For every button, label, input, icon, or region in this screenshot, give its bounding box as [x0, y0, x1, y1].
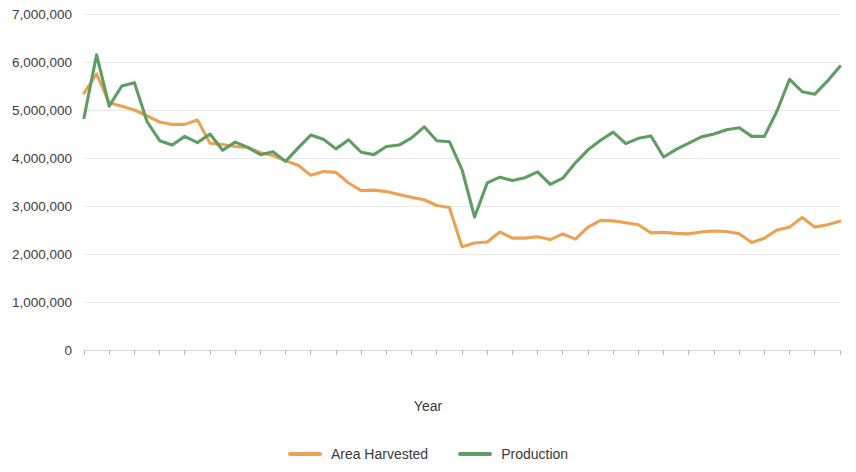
y-tick-label: 1,000,000 [12, 295, 72, 310]
series-line-2 [84, 55, 840, 217]
series-line-1 [84, 74, 840, 247]
legend-item-1[interactable]: Area Harvested [288, 446, 428, 462]
legend-label: Area Harvested [331, 446, 428, 462]
chart-legend: Area HarvestedProduction [0, 446, 856, 462]
y-tick-label: 2,000,000 [12, 247, 72, 262]
y-tick-label: 7,000,000 [12, 7, 72, 22]
plot-area: 01,000,0002,000,0003,000,0004,000,0005,0… [0, 0, 856, 360]
y-tick-label: 4,000,000 [12, 151, 72, 166]
plot-svg: 01,000,0002,000,0003,000,0004,000,0005,0… [0, 0, 856, 360]
legend-label: Production [501, 446, 568, 462]
line-swatch-icon [288, 452, 322, 456]
y-tick-label: 0 [64, 343, 72, 358]
line-chart: 01,000,0002,000,0003,000,0004,000,0005,0… [0, 0, 856, 472]
x-axis-title: Year [0, 398, 856, 414]
legend-item-2[interactable]: Production [458, 446, 568, 462]
y-tick-label: 6,000,000 [12, 55, 72, 70]
line-swatch-icon [458, 452, 492, 456]
y-tick-label: 3,000,000 [12, 199, 72, 214]
y-tick-label: 5,000,000 [12, 103, 72, 118]
